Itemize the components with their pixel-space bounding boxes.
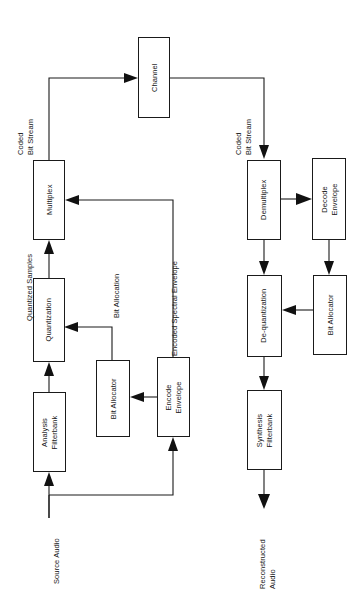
block-bit-allocator-encoder-text: Bit Allocator [108, 378, 118, 419]
block-quantization[interactable]: Quantization [33, 278, 65, 362]
block-synthesis-filterbank-text: Synthesis Filterbank [255, 413, 274, 447]
diagram-canvas: Channel Multiplex Quantization Analysis … [0, 0, 363, 608]
wire-decode-envelope-to-bit-allocator [324, 240, 334, 275]
block-quantization-text: Quantization [44, 298, 54, 341]
wire-source-to-analysis [44, 472, 54, 518]
label-encoded-spectral-envelope: Encoded Spectral Envelope [170, 261, 180, 356]
block-dequantization[interactable]: De-quantization [247, 275, 282, 357]
block-channel-text: Channel [149, 63, 159, 92]
block-multiplex[interactable]: Multiplex [33, 160, 65, 240]
label-bit-allocation: Bit Allocation [112, 274, 122, 318]
block-dequantization-text: De-quantization [260, 289, 270, 343]
wire-synthesis-to-output [258, 470, 270, 509]
block-analysis-filterbank[interactable]: Analysis Filterbank [33, 392, 66, 472]
wire-bit-allocator-to-dequantization [282, 305, 313, 315]
wire-channel-to-demultiplex [170, 78, 269, 159]
block-demultiplex-text: Demultiplex [259, 180, 269, 220]
wire-quantization-to-multiplex [44, 240, 54, 278]
block-bit-allocator-encoder[interactable]: Bit Allocator [96, 360, 130, 437]
wire-dequantization-to-synthesis [259, 357, 269, 390]
label-coded-bit-stream-decoder: Coded Bit Stream [234, 119, 253, 155]
wire-demultiplex-to-decode-envelope [281, 193, 312, 205]
wire-source-to-encode-envelope [49, 437, 178, 495]
block-encode-envelope-text: Encode Envelope [164, 381, 183, 413]
wire-multiplex-to-channel [49, 73, 138, 160]
block-decode-envelope[interactable]: Decode Envelope [312, 158, 346, 240]
wire-demultiplex-to-dequantization [259, 240, 269, 275]
block-bit-allocator-decoder-text: Bit Allocator [325, 295, 335, 336]
block-channel[interactable]: Channel [138, 37, 170, 118]
block-demultiplex[interactable]: Demultiplex [247, 160, 281, 240]
block-multiplex-text: Multiplex [44, 185, 54, 216]
wire-analysis-to-quantization [44, 362, 54, 392]
block-bit-allocator-decoder[interactable]: Bit Allocator [313, 275, 347, 355]
block-analysis-filterbank-text: Analysis Filterbank [40, 415, 59, 449]
wire-encode-envelope-to-bit-allocator [130, 392, 157, 402]
label-reconstructed-audio: Reconstructed Audio [258, 539, 277, 589]
block-decode-envelope-text: Decode Envelope [320, 183, 339, 215]
block-encode-envelope[interactable]: Encode Envelope [157, 357, 190, 437]
label-quantized-samples: Quantized Samples [25, 254, 35, 321]
label-source-audio: Source Audio [52, 538, 62, 584]
label-coded-bit-stream-encoder: Coded Bit Stream [16, 119, 35, 155]
block-synthesis-filterbank[interactable]: Synthesis Filterbank [247, 390, 282, 470]
